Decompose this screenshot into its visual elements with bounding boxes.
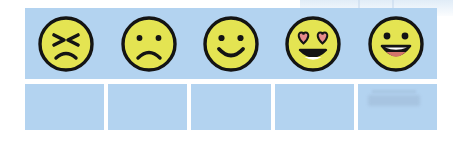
answer-box-3[interactable] xyxy=(191,84,270,130)
face-cell-angry[interactable] xyxy=(25,8,107,79)
heart-eyes-face-icon xyxy=(282,13,344,75)
answer-row xyxy=(25,84,437,130)
angry-face-icon xyxy=(35,13,97,75)
pencil-smudge-artifact xyxy=(372,90,416,93)
face-cell-smiling[interactable] xyxy=(190,8,272,79)
face-cell-sad[interactable] xyxy=(107,8,189,79)
smiling-face-icon xyxy=(200,13,262,75)
answer-box-5[interactable] xyxy=(358,84,437,130)
answer-box-2[interactable] xyxy=(108,84,187,130)
answer-box-4[interactable] xyxy=(275,84,354,130)
laughing-face-icon xyxy=(365,13,427,75)
faces-row xyxy=(25,8,437,79)
face-cell-heart-eyes[interactable] xyxy=(272,8,354,79)
answer-box-1[interactable] xyxy=(25,84,104,130)
face-cell-laughing[interactable] xyxy=(355,8,437,79)
pencil-smudge-artifact xyxy=(368,95,420,106)
sad-face-icon xyxy=(118,13,180,75)
worksheet-page xyxy=(0,0,453,145)
